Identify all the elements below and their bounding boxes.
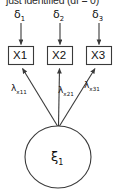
lambda-x11-label: λx11	[11, 84, 27, 95]
lambda-x21-label: λx21	[58, 86, 74, 97]
delta-2-subscript: 2	[60, 15, 64, 23]
delta-3-label: δ3	[92, 9, 103, 23]
lambda-x11-subscript: x11	[16, 89, 26, 95]
lambda-x31-subscript: x31	[89, 86, 99, 92]
figure-title-text: just identified (df = 0)	[6, 0, 99, 6]
delta-3-symbol: δ	[92, 8, 99, 21]
xi-1-label: ξ1	[51, 150, 63, 167]
x2-label: X2	[52, 50, 66, 62]
delta-1-label: δ1	[14, 9, 25, 23]
x1-label: X1	[13, 50, 27, 62]
x3-label: X3	[91, 50, 105, 62]
arrow-xi-to-x1	[23, 69, 58, 127]
figure-title-clipped: just identified (df = 0)	[0, 0, 114, 6]
xi-1-subscript: 1	[58, 158, 63, 167]
delta-2-symbol: δ	[53, 8, 60, 21]
delta-1-symbol: δ	[14, 8, 21, 21]
delta-2-label: δ2	[53, 9, 64, 23]
lambda-x31-label: λx31	[84, 81, 100, 92]
delta-1-subscript: 1	[21, 15, 25, 23]
sem-path-diagram: just identified (df = 0) δ1 δ2 δ3 X1 X2 …	[0, 0, 114, 196]
lambda-x21-subscript: x21	[63, 91, 73, 97]
delta-3-subscript: 3	[99, 15, 103, 23]
